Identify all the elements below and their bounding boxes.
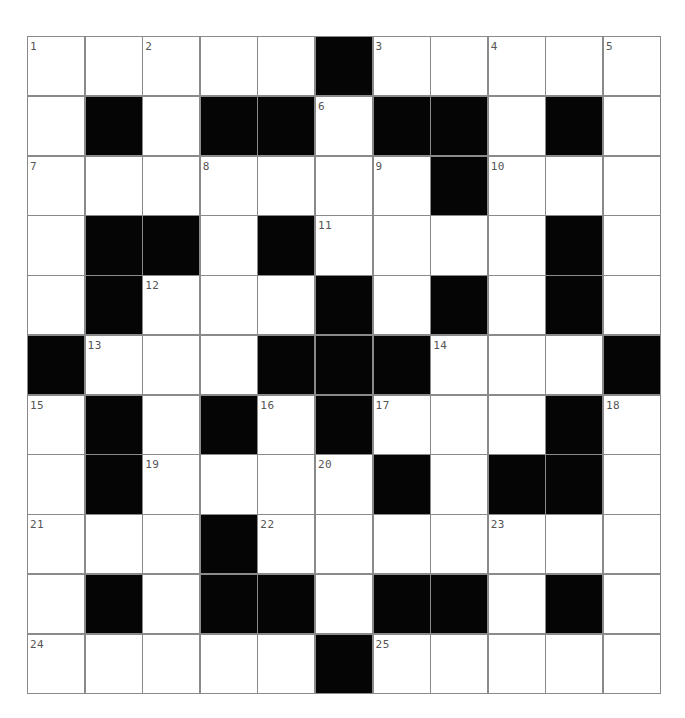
- crossword-cell[interactable]: [316, 515, 372, 573]
- crossword-cell[interactable]: [489, 97, 545, 155]
- crossword-cell[interactable]: [489, 575, 545, 633]
- crossword-cell[interactable]: 2: [143, 37, 199, 95]
- crossword-cell[interactable]: 5: [604, 37, 660, 95]
- crossword-cell[interactable]: 24: [28, 635, 84, 693]
- crossword-cell[interactable]: [316, 157, 372, 215]
- crossword-cell[interactable]: [86, 157, 142, 215]
- crossword-cell[interactable]: [28, 216, 84, 274]
- crossword-cell[interactable]: 21: [28, 515, 84, 573]
- crossword-cell[interactable]: [258, 455, 314, 513]
- black-square: [546, 97, 602, 155]
- black-square: [258, 575, 314, 633]
- crossword-cell[interactable]: [374, 515, 430, 573]
- crossword-cell[interactable]: 19: [143, 455, 199, 513]
- crossword-cell[interactable]: 10: [489, 157, 545, 215]
- crossword-cell[interactable]: [546, 37, 602, 95]
- crossword-cell[interactable]: [604, 97, 660, 155]
- clue-number: 12: [145, 280, 159, 291]
- crossword-cell[interactable]: 7: [28, 157, 84, 215]
- crossword-cell[interactable]: 8: [201, 157, 257, 215]
- crossword-cell[interactable]: [143, 157, 199, 215]
- crossword-cell[interactable]: [201, 455, 257, 513]
- crossword-cell[interactable]: 12: [143, 276, 199, 334]
- crossword-cell[interactable]: 20: [316, 455, 372, 513]
- crossword-cell[interactable]: 9: [374, 157, 430, 215]
- crossword-cell[interactable]: [28, 97, 84, 155]
- black-square: [201, 575, 257, 633]
- crossword-cell[interactable]: [431, 635, 487, 693]
- crossword-cell[interactable]: [604, 515, 660, 573]
- crossword-cell[interactable]: 16: [258, 396, 314, 454]
- crossword-cell[interactable]: [258, 276, 314, 334]
- crossword-cell[interactable]: [28, 455, 84, 513]
- crossword-cell[interactable]: [604, 635, 660, 693]
- crossword-cell[interactable]: [489, 276, 545, 334]
- crossword-cell[interactable]: [546, 336, 602, 394]
- crossword-cell[interactable]: [431, 455, 487, 513]
- clue-number: 17: [376, 400, 390, 411]
- crossword-cell[interactable]: 22: [258, 515, 314, 573]
- crossword-cell[interactable]: [489, 396, 545, 454]
- crossword-cell[interactable]: [143, 336, 199, 394]
- crossword-cell[interactable]: 1: [28, 37, 84, 95]
- crossword-cell[interactable]: [546, 157, 602, 215]
- crossword-cell[interactable]: [143, 515, 199, 573]
- crossword-cell[interactable]: [28, 575, 84, 633]
- crossword-cell[interactable]: 13: [86, 336, 142, 394]
- crossword-cell[interactable]: [489, 635, 545, 693]
- crossword-cell[interactable]: [604, 276, 660, 334]
- crossword-cell[interactable]: 11: [316, 216, 372, 274]
- crossword-cell[interactable]: [374, 216, 430, 274]
- clue-number: 9: [376, 161, 383, 172]
- crossword-cell[interactable]: [201, 37, 257, 95]
- crossword-cell[interactable]: [258, 37, 314, 95]
- crossword-cell[interactable]: 3: [374, 37, 430, 95]
- crossword-cell[interactable]: 15: [28, 396, 84, 454]
- black-square: [28, 336, 84, 394]
- crossword-cell[interactable]: [143, 396, 199, 454]
- crossword-cell[interactable]: [201, 216, 257, 274]
- crossword-cell[interactable]: [431, 216, 487, 274]
- crossword-cell[interactable]: [201, 336, 257, 394]
- clue-number: 2: [145, 41, 152, 52]
- crossword-cell[interactable]: [489, 216, 545, 274]
- crossword-cell[interactable]: [86, 515, 142, 573]
- crossword-cell[interactable]: [546, 635, 602, 693]
- crossword-cell[interactable]: [489, 336, 545, 394]
- crossword-cell[interactable]: [86, 635, 142, 693]
- black-square: [86, 276, 142, 334]
- crossword-cell[interactable]: [546, 515, 602, 573]
- clue-number: 4: [491, 41, 498, 52]
- crossword-cell[interactable]: [258, 157, 314, 215]
- black-square: [431, 276, 487, 334]
- crossword-cell[interactable]: [143, 635, 199, 693]
- crossword-cell[interactable]: [86, 37, 142, 95]
- crossword-cell[interactable]: [316, 575, 372, 633]
- crossword-cell[interactable]: 18: [604, 396, 660, 454]
- crossword-cell[interactable]: [258, 635, 314, 693]
- black-square: [316, 635, 372, 693]
- crossword-cell[interactable]: [604, 575, 660, 633]
- crossword-cell[interactable]: [431, 37, 487, 95]
- black-square: [201, 97, 257, 155]
- crossword-cell[interactable]: [431, 515, 487, 573]
- crossword-cell[interactable]: [143, 575, 199, 633]
- crossword-cell[interactable]: [201, 635, 257, 693]
- crossword-cell[interactable]: [201, 276, 257, 334]
- crossword-cell[interactable]: [604, 216, 660, 274]
- crossword-cell[interactable]: [143, 97, 199, 155]
- crossword-cell[interactable]: 17: [374, 396, 430, 454]
- crossword-cell[interactable]: 4: [489, 37, 545, 95]
- crossword-cell[interactable]: [374, 276, 430, 334]
- black-square: [258, 336, 314, 394]
- clue-number: 13: [88, 340, 102, 351]
- crossword-cell[interactable]: [431, 396, 487, 454]
- crossword-cell[interactable]: [604, 455, 660, 513]
- black-square: [604, 336, 660, 394]
- crossword-cell[interactable]: [28, 276, 84, 334]
- crossword-cell[interactable]: 25: [374, 635, 430, 693]
- crossword-cell[interactable]: [604, 157, 660, 215]
- crossword-cell[interactable]: 6: [316, 97, 372, 155]
- crossword-cell[interactable]: 23: [489, 515, 545, 573]
- crossword-cell[interactable]: 14: [431, 336, 487, 394]
